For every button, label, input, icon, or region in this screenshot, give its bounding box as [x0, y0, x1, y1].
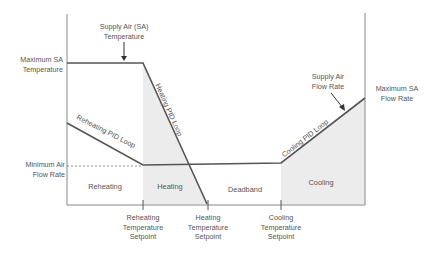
reheating-temperature-setpoint-label: Reheating Temperature Setpoint [113, 213, 173, 242]
supply-air-temperature-callout: Supply Air (SA) Temperature [94, 22, 154, 41]
min-air-flow-rate-label: Minimum Air Flow Rate [8, 160, 65, 179]
max-sa-temperature-label: Maximum SA Temperature [8, 55, 63, 74]
cooling-temperature-setpoint-label: Cooling Temperature Setpoint [251, 213, 311, 242]
region-cooling: Cooling [296, 178, 346, 187]
supply-air-flow-rate-callout: Supply Air Flow Rate [300, 72, 356, 91]
region-reheating: Reheating [80, 182, 130, 191]
arrow-diagonal-icon [331, 93, 345, 111]
arrow-down-icon [121, 42, 127, 61]
heating-temperature-setpoint-label: Heating Temperature Setpoint [178, 213, 238, 242]
max-sa-flow-rate-label: Maximum SA Flow Rate [368, 84, 426, 103]
region-deadband: Deadband [220, 185, 270, 194]
region-heating: Heating [150, 182, 190, 191]
